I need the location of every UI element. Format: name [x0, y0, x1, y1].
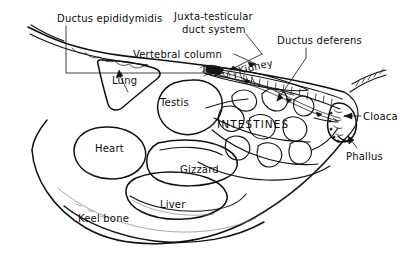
tail-feather-lower [350, 75, 386, 92]
organ-text-group: Lung Testis Kidney INTESTINES Heart Gizz… [78, 57, 289, 224]
cloaca-inner-folds [333, 110, 343, 136]
label-ductus-deferens: Ductus deferens [277, 35, 362, 46]
intestine-mesentery-2 [212, 130, 318, 165]
liver-outline [126, 172, 227, 219]
cloaca-group [328, 103, 357, 142]
gizzard-inner [160, 147, 222, 155]
label-ductus-epididymidis: Ductus epididymidis [57, 13, 163, 24]
label-juxta-testicular-line1: Juxta-testicular [173, 11, 254, 22]
breast-front-contour [32, 120, 47, 150]
intestine-loop-3 [294, 96, 314, 116]
liver-lobe-line [130, 194, 246, 211]
intestine-loop-9 [289, 141, 311, 164]
ventral-contour [32, 140, 344, 244]
intestines-group [198, 88, 338, 180]
label-gizzard: Gizzard [180, 164, 219, 175]
intestine-loop-7 [225, 136, 250, 160]
intestine-loop-8 [257, 143, 282, 167]
label-phallus: Phallus [346, 151, 383, 162]
tail-feathers-group [350, 69, 386, 92]
label-juxta-testicular-line2: duct system [182, 24, 246, 35]
label-lung: Lung [112, 75, 137, 86]
label-keel-bone: Keel bone [78, 213, 129, 224]
label-vertebral-column: Vertebral column [133, 49, 222, 60]
anatomy-diagram: Ductus epididymidis Juxta-testicular duc… [0, 0, 408, 263]
liver-group [126, 172, 246, 219]
diagram-canvas: Ductus epididymidis Juxta-testicular duc… [0, 0, 408, 263]
arrowhead-cloaca [344, 113, 352, 119]
label-cloaca: Cloaca [363, 111, 398, 122]
neck-contour [31, 25, 64, 41]
label-heart: Heart [95, 143, 124, 154]
label-testis: Testis [159, 97, 189, 108]
gizzard-outline [147, 140, 238, 186]
label-intestines: INTESTINES [217, 118, 289, 130]
arrowhead-duct-tick-3 [316, 112, 322, 117]
label-liver: Liver [160, 199, 186, 210]
leader-juxta-testicular [246, 34, 262, 54]
gizzard-group [147, 140, 238, 186]
